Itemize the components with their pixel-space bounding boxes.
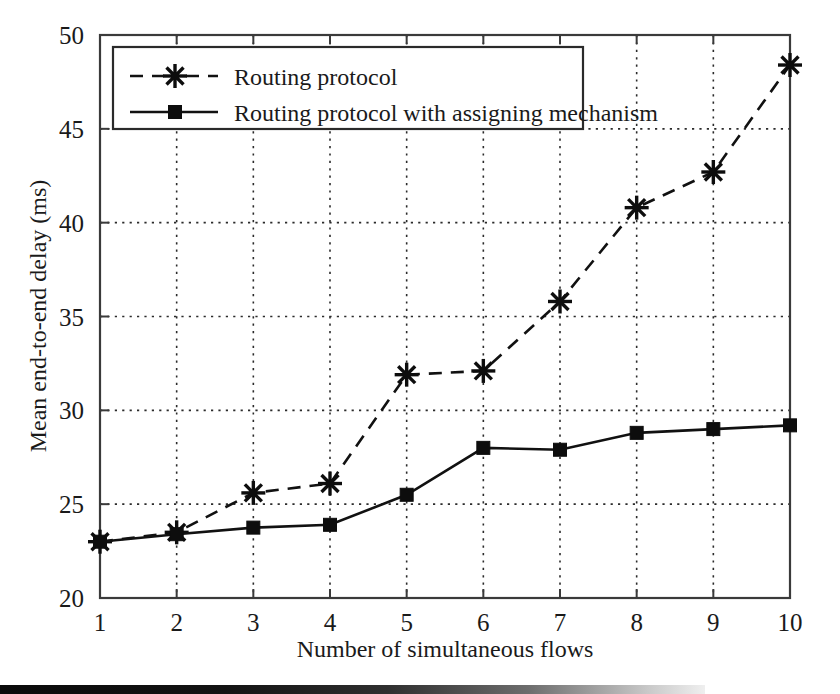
chart-figure: 20253035404550 12345678910 Mean end-to-e… [0,0,840,694]
legend-marker-square-icon [169,106,182,119]
y-tick-label: 40 [59,210,84,237]
y-tick-label: 35 [59,304,84,331]
x-tick-label: 5 [400,609,413,636]
y-tick-label: 30 [59,397,84,424]
data-point-marker [170,528,183,541]
y-tick-label: 25 [59,491,84,518]
x-tick-label: 6 [477,609,490,636]
y-tick-label: 20 [59,585,84,612]
page-edge-bar [0,685,705,694]
data-point-marker [477,441,490,454]
x-tick-label: 3 [247,609,260,636]
data-point-marker [324,518,337,531]
x-axis-title: Number of simultaneous flows [297,636,594,662]
data-point-marker [784,419,797,432]
chart-legend: Routing protocolRouting protocol with as… [113,47,658,129]
x-tick-label: 1 [94,609,107,636]
marker-star-core [326,479,334,487]
marker-star-core [633,204,641,212]
legend-marker-star-icon [163,64,187,88]
data-point-marker [247,521,260,534]
y-axis-title: Mean end-to-end delay (ms) [25,180,51,453]
data-point-marker [548,289,572,313]
data-point-marker [241,481,265,505]
data-point-marker [471,359,495,383]
marker-star-core [709,168,717,176]
marker-star-core [786,61,794,69]
x-tick-label: 7 [554,609,567,636]
data-point-marker [630,426,643,439]
data-point-marker [625,196,649,220]
data-point-marker [778,53,802,77]
data-point-marker [400,488,413,501]
data-point-marker [701,160,725,184]
legend-label: Routing protocol [234,64,398,90]
x-tick-label: 9 [707,609,720,636]
legend-label: Routing protocol with assigning mechanis… [234,100,658,126]
x-tick-label: 4 [324,609,337,636]
data-point-marker [94,535,107,548]
marker-star-core [249,489,257,497]
y-tick-label: 50 [59,22,84,49]
x-tick-label: 10 [778,609,803,636]
x-tick-label: 2 [170,609,183,636]
marker-star-core [171,72,179,80]
data-point-marker [395,363,419,387]
marker-star-core [403,371,411,379]
x-tick-label: 8 [630,609,643,636]
data-point-marker [707,423,720,436]
data-point-marker [318,472,342,496]
marker-star-core [479,367,487,375]
marker-star-core [556,297,564,305]
y-tick-label: 45 [59,116,84,143]
line-chart: 20253035404550 12345678910 Mean end-to-e… [0,0,840,694]
data-point-marker [554,443,567,456]
